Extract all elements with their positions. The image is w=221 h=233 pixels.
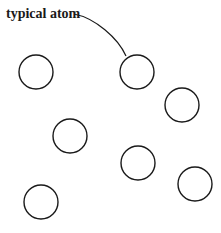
atom-circle bbox=[121, 146, 155, 180]
atom-circle bbox=[165, 88, 199, 122]
leader-line bbox=[74, 14, 126, 56]
atom-diagram: typical atom bbox=[0, 0, 221, 233]
atom-circle bbox=[120, 55, 154, 89]
atom-circle bbox=[19, 55, 53, 89]
atom-circle bbox=[178, 167, 212, 201]
atom-circle bbox=[53, 119, 87, 153]
atom-circle bbox=[24, 185, 58, 219]
atoms-group bbox=[19, 55, 212, 219]
atoms-drawing bbox=[0, 0, 221, 233]
typical-atom-label: typical atom bbox=[6, 6, 80, 22]
